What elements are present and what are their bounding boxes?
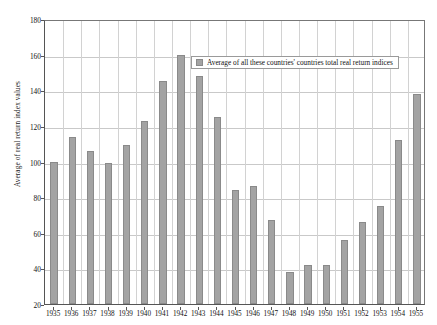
y-tick-label: 180	[6, 16, 44, 25]
gridline-vertical	[99, 21, 100, 304]
bar	[413, 94, 420, 304]
bar	[395, 140, 402, 304]
x-tick-label: 1951	[336, 310, 350, 318]
x-tick-label: 1950	[318, 310, 332, 318]
x-tick-mark	[162, 307, 163, 310]
bar	[105, 163, 112, 304]
y-tick-label: 160	[6, 51, 44, 60]
x-tick-mark	[253, 307, 254, 310]
x-tick-label: 1952	[354, 310, 368, 318]
gridline-vertical	[63, 21, 64, 304]
x-tick-label: 1936	[64, 310, 78, 318]
legend-label: Average of all these countries' countrie…	[207, 59, 393, 66]
x-tick-label: 1947	[264, 310, 278, 318]
y-tick-label: 40	[6, 265, 44, 274]
bar	[286, 272, 293, 304]
bar	[268, 220, 275, 304]
x-tick-mark	[307, 307, 308, 310]
x-tick-label: 1954	[391, 310, 405, 318]
gridline-horizontal	[45, 92, 424, 93]
x-tick-mark	[398, 307, 399, 310]
x-tick-mark	[89, 307, 90, 310]
x-tick-label: 1955	[409, 310, 423, 318]
bar	[196, 76, 203, 304]
gridline-vertical	[172, 21, 173, 304]
x-tick-mark	[53, 307, 54, 310]
bar	[214, 117, 221, 304]
x-tick-label: 1937	[82, 310, 96, 318]
x-tick-mark	[71, 307, 72, 310]
x-tick-mark	[362, 307, 363, 310]
gridline-vertical	[154, 21, 155, 304]
bar	[177, 55, 184, 304]
x-tick-mark	[289, 307, 290, 310]
x-tick-label: 1944	[209, 310, 223, 318]
bar	[50, 162, 57, 305]
x-tick-label: 1943	[191, 310, 205, 318]
x-tick-label: 1940	[137, 310, 151, 318]
bar	[250, 186, 257, 304]
x-tick-mark	[126, 307, 127, 310]
bar	[69, 137, 76, 304]
gridline-horizontal	[45, 128, 424, 129]
x-tick-label: 1948	[282, 310, 296, 318]
bar	[323, 265, 330, 304]
gridline-horizontal	[45, 164, 424, 165]
x-tick-mark	[180, 307, 181, 310]
bar	[341, 240, 348, 304]
x-axis-tick-labels: 1935193619371938193919401941194219431944…	[44, 307, 425, 325]
bar	[232, 190, 239, 304]
x-tick-mark	[216, 307, 217, 310]
y-tick-label: 100	[6, 158, 44, 167]
x-tick-label: 1945	[227, 310, 241, 318]
x-tick-mark	[325, 307, 326, 310]
y-tick-mark	[41, 305, 44, 306]
x-tick-label: 1935	[46, 310, 60, 318]
x-tick-mark	[198, 307, 199, 310]
gridline-vertical	[81, 21, 82, 304]
x-tick-mark	[416, 307, 417, 310]
y-tick-label: 80	[6, 194, 44, 203]
legend-swatch-icon	[196, 59, 203, 66]
x-tick-mark	[108, 307, 109, 310]
y-tick-label: 120	[6, 122, 44, 131]
y-tick-label: 140	[6, 87, 44, 96]
x-tick-label: 1941	[155, 310, 169, 318]
x-tick-mark	[380, 307, 381, 310]
bar	[87, 151, 94, 304]
x-tick-label: 1949	[300, 310, 314, 318]
x-tick-mark	[235, 307, 236, 310]
y-axis-tick-labels: 20406080100120140160180	[0, 20, 44, 305]
y-tick-label: 60	[6, 229, 44, 238]
bar	[123, 145, 130, 304]
bar	[304, 265, 311, 304]
gridline-vertical	[136, 21, 137, 304]
x-tick-label: 1939	[118, 310, 132, 318]
chart-legend: Average of all these countries' countrie…	[191, 56, 399, 69]
bar	[377, 206, 384, 304]
x-tick-mark	[144, 307, 145, 310]
x-tick-label: 1946	[245, 310, 259, 318]
x-tick-mark	[343, 307, 344, 310]
gridline-vertical	[118, 21, 119, 304]
y-tick-label: 20	[6, 301, 44, 310]
bar	[159, 81, 166, 304]
x-tick-label: 1938	[100, 310, 114, 318]
gridline-vertical	[408, 21, 409, 304]
x-tick-label: 1942	[173, 310, 187, 318]
bar-chart: Average of real return index values 2040…	[0, 0, 437, 325]
x-tick-label: 1953	[372, 310, 386, 318]
x-tick-mark	[271, 307, 272, 310]
bar	[141, 121, 148, 304]
bar	[359, 222, 366, 304]
